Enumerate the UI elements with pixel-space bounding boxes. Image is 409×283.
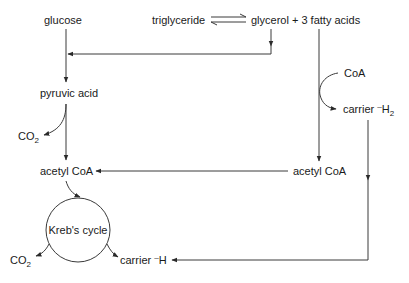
acetyl-coa-left-label: acetyl CoA bbox=[40, 165, 94, 177]
carrier-h-label: carrier –H bbox=[120, 253, 167, 266]
pyruvic-to-co2-arrow bbox=[44, 104, 66, 135]
carrier-h2-label: carrier –H2 bbox=[343, 102, 395, 118]
krebs-to-carrier-h-arrow bbox=[107, 244, 118, 257]
krebs-cycle-label: Kreb's cycle bbox=[49, 224, 108, 236]
reversible-arrow-icon bbox=[211, 14, 246, 25]
co2-top-label: CO2 bbox=[18, 130, 40, 145]
triglyceride-label: triglyceride bbox=[152, 14, 205, 26]
coa-to-carrier-h2-arrow bbox=[320, 73, 338, 109]
krebs-to-co2-arrow bbox=[36, 244, 49, 256]
glucose-label: glucose bbox=[44, 14, 82, 26]
glycerol-to-glucose-arrow bbox=[68, 46, 271, 54]
pyruvic-acid-label: pyruvic acid bbox=[40, 87, 98, 99]
metabolic-pathway-diagram: glucose triglyceride glycerol + 3 fatty … bbox=[0, 0, 409, 283]
carrier-h2-to-carrier-h-arrow bbox=[172, 180, 368, 260]
glycerol-fatty-acids-label: glycerol + 3 fatty acids bbox=[251, 14, 361, 26]
acetyl-coa-to-krebs-arrow bbox=[66, 181, 80, 197]
co2-bottom-label: CO2 bbox=[10, 254, 32, 269]
coa-label: CoA bbox=[344, 67, 366, 79]
acetyl-coa-right-label: acetyl CoA bbox=[293, 165, 347, 177]
